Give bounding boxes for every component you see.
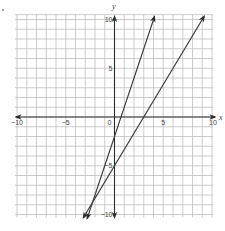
y-tick-label: −5 (105, 162, 113, 169)
x-tick-label: 10 (209, 119, 217, 126)
x-tick-label: −10 (11, 119, 23, 126)
x-tick-label: −5 (62, 119, 70, 126)
coordinate-plane: −10−50510105−5−10 x y (0, 0, 225, 231)
x-axis-title: x (218, 113, 223, 122)
y-axis-title: y (111, 2, 116, 11)
x-tick-label: 5 (161, 119, 165, 126)
question-bullet (2, 9, 4, 11)
axes (16, 17, 215, 218)
y-tick-label: 5 (109, 65, 113, 72)
x-tick-label: 0 (108, 119, 112, 126)
y-tick-label: 10 (105, 16, 113, 23)
y-tick-label: −10 (101, 211, 113, 218)
